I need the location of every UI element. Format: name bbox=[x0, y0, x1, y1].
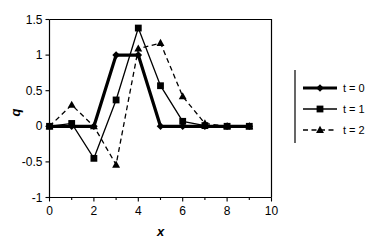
chart-legend: t = 0t = 1t = 2 bbox=[295, 70, 365, 143]
data-point-marker bbox=[135, 51, 143, 59]
data-point-marker bbox=[113, 97, 120, 104]
x-tick-label: 0 bbox=[46, 204, 53, 218]
legend-item-t0[interactable]: t = 0 bbox=[303, 82, 365, 94]
legend-label: t = 0 bbox=[343, 82, 365, 94]
legend-label: t = 1 bbox=[343, 103, 365, 115]
series-t0 bbox=[46, 51, 253, 130]
y-tick-label: 0.5 bbox=[26, 84, 43, 98]
data-point-marker bbox=[179, 92, 187, 99]
legend-item-t2[interactable]: t = 2 bbox=[303, 124, 365, 136]
legend-marker-swatch bbox=[316, 84, 324, 92]
y-tick-label: -0.5 bbox=[22, 155, 43, 169]
x-tick-label: 4 bbox=[135, 204, 142, 218]
chart-figure: -1-0.500.511.5 0246810 q x t = 0t = 1t =… bbox=[0, 0, 388, 249]
data-point-marker bbox=[157, 39, 165, 46]
x-tick-label: 2 bbox=[91, 204, 98, 218]
data-point-marker bbox=[112, 161, 120, 168]
x-axis-tick-labels: 0246810 bbox=[46, 204, 278, 218]
data-point-marker bbox=[157, 123, 165, 131]
x-tick-label: 8 bbox=[224, 204, 231, 218]
data-point-marker bbox=[135, 25, 142, 32]
legend-marker-swatch bbox=[317, 106, 324, 113]
data-point-marker bbox=[91, 155, 98, 162]
y-tick-label: 1 bbox=[36, 48, 43, 62]
data-point-marker bbox=[112, 51, 120, 59]
series-layer bbox=[46, 25, 254, 168]
y-tick-label: 1.5 bbox=[26, 13, 43, 27]
x-tick-label: 10 bbox=[265, 204, 279, 218]
y-axis-tick-labels: -1-0.500.511.5 bbox=[22, 13, 43, 205]
y-axis-title: q bbox=[8, 108, 23, 116]
data-point-marker bbox=[134, 45, 142, 52]
y-tick-label: 0 bbox=[36, 119, 43, 133]
legend-item-t1[interactable]: t = 1 bbox=[303, 103, 365, 115]
plot-frame bbox=[50, 20, 272, 198]
x-tick-label: 6 bbox=[179, 204, 186, 218]
y-tick-label: -1 bbox=[32, 191, 43, 205]
x-axis-title: x bbox=[156, 224, 165, 239]
data-point-marker bbox=[157, 82, 164, 89]
legend-label: t = 2 bbox=[343, 124, 365, 136]
data-point-marker bbox=[68, 101, 76, 108]
line-chart: -1-0.500.511.5 0246810 q x t = 0t = 1t =… bbox=[0, 0, 388, 249]
